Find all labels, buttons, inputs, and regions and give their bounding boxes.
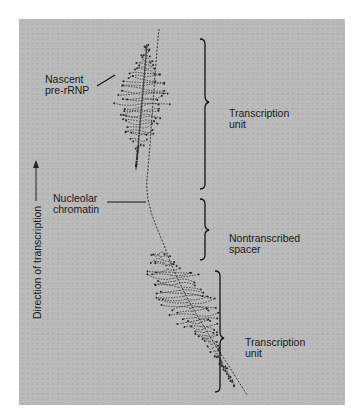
label-transcription-unit-top: Transcription unit [229, 108, 289, 130]
label-nascent-pre-rrnp: Nascent pre-rRNP [45, 74, 89, 96]
bracket-transcription-unit-top [200, 39, 209, 189]
chromatin-fiber [147, 29, 247, 395]
micrograph-panel: Nascent pre-rRNP Nucleolar chromatin Tra… [19, 19, 345, 405]
nascent-leader-line [97, 75, 115, 86]
label-direction-of-transcription: Direction of transcription [31, 206, 43, 319]
label-nontranscribed-spacer: Nontranscribed spacer [229, 233, 300, 255]
label-nucleolar-chromatin: Nucleolar chromatin [53, 193, 99, 215]
label-line: pre-rRNP [45, 85, 89, 96]
bracket-nontranscribed-spacer [200, 199, 209, 260]
label-line: chromatin [53, 204, 99, 215]
label-line: spacer [229, 244, 300, 255]
lower-rnp-fibrils [146, 252, 235, 387]
label-line: unit [229, 119, 289, 130]
label-transcription-unit-bottom: Transcription unit [245, 337, 305, 359]
upper-rnp-fibrils [113, 44, 171, 169]
arrow-up-icon [33, 160, 39, 201]
label-line: unit [245, 348, 305, 359]
